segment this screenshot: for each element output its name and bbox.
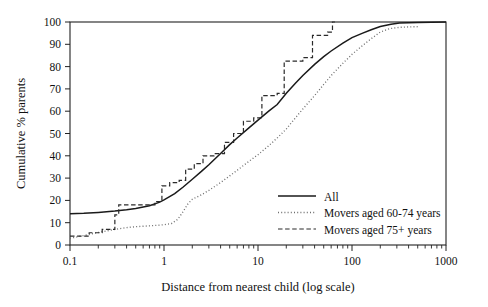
data-series-group [70, 22, 446, 238]
legend-label: All [324, 191, 339, 203]
y-tick-label: 80 [50, 61, 62, 73]
legend-label: Movers aged 75+ years [324, 224, 432, 237]
x-tick-label: 100 [343, 255, 361, 267]
x-axis-ticks: 0.11101001000 [63, 245, 458, 267]
y-tick-label: 60 [50, 105, 62, 117]
y-tick-label: 20 [50, 194, 62, 206]
y-axis-ticks: 0102030405060708090100 [44, 16, 70, 251]
x-axis-title: Distance from nearest child (log scale) [161, 280, 354, 294]
y-tick-label: 100 [44, 16, 62, 28]
y-tick-label: 10 [50, 217, 62, 229]
y-tick-label: 40 [50, 150, 62, 162]
y-tick-label: 70 [50, 83, 62, 95]
chart-legend: AllMovers aged 60-74 yearsMovers aged 75… [278, 191, 441, 237]
y-tick-label: 0 [55, 239, 61, 251]
y-axis-title: Cumulative % parents [14, 78, 28, 189]
y-tick-label: 30 [50, 172, 62, 184]
x-tick-label: 1000 [435, 255, 458, 267]
series-line [70, 22, 335, 236]
x-tick-label: 10 [252, 255, 264, 267]
x-tick-label: 1 [161, 255, 167, 267]
legend-label: Movers aged 60-74 years [324, 207, 441, 220]
y-tick-label: 50 [50, 128, 62, 140]
x-tick-label: 0.1 [63, 255, 78, 267]
chart-figure: 0102030405060708090100 0.11101001000 All… [0, 0, 488, 307]
cumulative-distribution-chart: 0102030405060708090100 0.11101001000 All… [0, 0, 488, 307]
y-tick-label: 90 [50, 38, 62, 50]
